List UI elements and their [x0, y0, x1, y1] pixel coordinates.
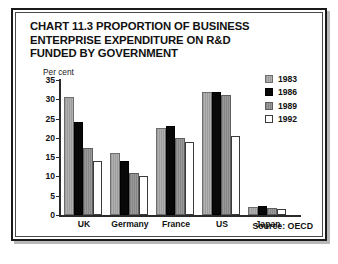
bar-france-1989: [175, 138, 185, 215]
bar-germany-1992: [139, 176, 149, 215]
bar-group-uk: [64, 80, 102, 215]
y-axis-tick-0: 0: [50, 210, 55, 220]
legend-item-1989: 1989: [265, 99, 297, 113]
chart-title: CHART 11.3 PROPORTION OF BUSINESS ENTERP…: [30, 20, 280, 61]
bar-germany-1989: [129, 173, 139, 215]
bar-france-1986: [166, 126, 176, 215]
legend-swatch-1992: [265, 115, 273, 123]
y-axis-tick-35: 35: [45, 75, 55, 85]
bar-uk-1989: [83, 148, 93, 216]
legend-label-1989: 1989: [278, 101, 297, 111]
y-axis-tickmark-10: [56, 176, 59, 177]
x-axis-label-japan: Japan: [248, 219, 288, 229]
plot-area: [60, 80, 300, 215]
chart-title-line-3: FUNDED BY GOVERNMENT: [30, 47, 280, 61]
x-axis-label-germany: Germany: [110, 219, 150, 229]
y-axis-tick-10: 10: [45, 171, 55, 181]
bar-japan-1986: [258, 206, 268, 215]
chart-title-line-2: ENTERPRISE EXPENDITURE ON R&D: [30, 34, 280, 48]
y-axis-tickmark-0: [56, 215, 59, 216]
y-axis-tickmark-25: [56, 119, 59, 120]
y-axis-tickmark-35: [56, 80, 59, 81]
chart-figure-frame: CHART 11.3 PROPORTION OF BUSINESS ENTERP…: [11, 8, 327, 241]
bar-us-1986: [212, 92, 222, 215]
y-axis-tickmark-20: [56, 138, 59, 139]
bar-france-1992: [185, 142, 195, 215]
legend-label-1983: 1983: [278, 74, 297, 84]
bar-uk-1983: [64, 97, 74, 215]
chart-title-line-1: CHART 11.3 PROPORTION OF BUSINESS: [30, 20, 280, 34]
bar-japan-1989: [267, 208, 277, 215]
bar-us-1992: [231, 136, 241, 215]
legend-item-1986: 1986: [265, 86, 297, 100]
bar-group-us: [202, 80, 240, 215]
legend-item-1983: 1983: [265, 72, 297, 86]
legend-item-1992: 1992: [265, 113, 297, 127]
y-axis-tickmark-5: [56, 196, 59, 197]
y-axis-tick-30: 30: [45, 94, 55, 104]
bar-uk-1992: [93, 161, 103, 215]
bar-japan-1992: [277, 209, 287, 215]
x-axis-label-us: US: [202, 219, 242, 229]
y-axis-tick-25: 25: [45, 114, 55, 124]
y-axis-tick-labels: 35302520151050: [35, 10, 55, 264]
bar-us-1983: [202, 92, 212, 215]
bar-us-1989: [221, 95, 231, 215]
legend-swatch-1989: [265, 102, 273, 110]
x-axis-label-uk: UK: [64, 219, 104, 229]
bar-group-france: [156, 80, 194, 215]
x-axis-label-france: France: [156, 219, 196, 229]
legend-swatch-1983: [265, 75, 273, 83]
legend-label-1992: 1992: [278, 114, 297, 124]
chart-legend: 1983198619891992: [265, 72, 297, 126]
bar-japan-1983: [248, 207, 258, 215]
bar-france-1983: [156, 128, 166, 215]
y-axis-tickmark-30: [56, 99, 59, 100]
legend-label-1986: 1986: [278, 87, 297, 97]
y-axis-tick-5: 5: [50, 191, 55, 201]
legend-swatch-1986: [265, 88, 273, 96]
y-axis-tick-20: 20: [45, 133, 55, 143]
y-axis-tickmark-15: [56, 157, 59, 158]
bar-germany-1986: [120, 161, 130, 215]
bar-germany-1983: [110, 153, 120, 215]
bar-group-germany: [110, 80, 148, 215]
bar-uk-1986: [74, 122, 84, 215]
y-axis-tick-15: 15: [45, 152, 55, 162]
x-axis-line: [59, 215, 301, 217]
